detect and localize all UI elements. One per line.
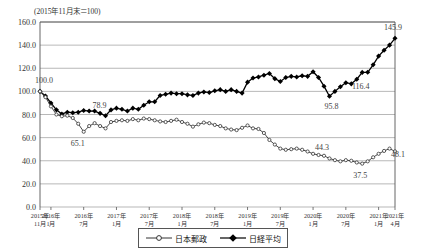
x-axis-tick-label-year: 2017年: [140, 212, 158, 220]
data-point-japanpost: [251, 127, 254, 130]
data-point-japanpost: [175, 118, 178, 121]
data-point-japanpost: [104, 127, 107, 130]
data-point-japanpost: [88, 124, 91, 127]
data-point-japanpost: [213, 123, 216, 126]
data-point-japanpost: [311, 152, 314, 155]
x-axis-tick-label-month: 7月: [145, 220, 154, 228]
data-point-japanpost: [71, 116, 74, 119]
y-axis-tick-label: 140.0: [18, 41, 36, 50]
data-label: 100.0: [35, 76, 53, 85]
data-point-japanpost: [115, 119, 118, 122]
data-point-nikkei: [234, 89, 239, 94]
legend-label-nikkei: 日経平均: [249, 233, 281, 244]
data-point-nikkei: [125, 108, 130, 113]
data-point-japanpost: [377, 152, 380, 155]
x-axis-tick-label-year: 2016年: [42, 212, 60, 220]
data-point-japanpost: [98, 124, 101, 127]
filled-diamond-marker-icon: [220, 233, 246, 243]
data-label: 65.1: [71, 139, 85, 148]
data-point-nikkei: [300, 73, 305, 78]
data-point-japanpost: [202, 121, 205, 124]
data-point-japanpost: [93, 122, 96, 125]
data-point-japanpost: [159, 120, 162, 123]
x-axis-tick-label-year: 2017年: [107, 212, 125, 220]
data-point-japanpost: [301, 148, 304, 151]
data-point-nikkei: [294, 74, 299, 79]
data-point-japanpost: [279, 147, 282, 150]
data-point-nikkei: [130, 106, 135, 111]
y-axis-tick-label: 40.0: [22, 157, 36, 166]
data-label: 145.9: [384, 23, 402, 32]
x-axis-tick-label-year: 2019年: [271, 212, 289, 220]
data-point-nikkei: [256, 74, 261, 79]
x-axis-tick-label-year: 2018年: [206, 212, 224, 220]
y-axis-tick-label: 20.0: [22, 180, 36, 189]
data-point-japanpost: [66, 114, 69, 117]
data-point-japanpost: [55, 113, 58, 116]
data-point-japanpost: [372, 156, 375, 159]
data-label: 37.5: [353, 171, 367, 180]
data-point-japanpost: [240, 126, 243, 129]
x-axis-tick-label-month: 11月: [34, 220, 46, 228]
data-point-japanpost: [273, 143, 276, 146]
data-point-nikkei: [163, 92, 168, 97]
data-point-japanpost: [262, 131, 265, 134]
data-point-japanpost: [77, 122, 80, 125]
data-point-japanpost: [153, 119, 156, 122]
x-axis-tick-label-month: 1月: [112, 220, 121, 228]
chart-legend: 日本郵政 日経平均: [138, 228, 288, 248]
data-point-japanpost: [186, 122, 189, 125]
data-point-japanpost: [328, 157, 331, 160]
data-point-nikkei: [81, 108, 86, 113]
data-label: 95.8: [324, 102, 338, 111]
data-point-nikkei: [207, 90, 212, 95]
x-axis-tick-label-month: 7月: [276, 220, 285, 228]
data-point-japanpost: [208, 122, 211, 125]
data-point-japanpost: [257, 127, 260, 130]
data-point-nikkei: [119, 107, 124, 112]
data-point-japanpost: [361, 162, 364, 165]
y-axis-tick-label: 120.0: [18, 64, 36, 73]
data-point-japanpost: [142, 117, 145, 120]
x-axis-tick-label-month: 1月: [177, 220, 186, 228]
data-label: 48.1: [391, 150, 405, 159]
data-label: 78.9: [93, 101, 107, 110]
x-axis-tick-label-month: 1月: [309, 220, 318, 228]
y-axis-tick-label: 0.0: [26, 203, 36, 212]
data-point-japanpost: [219, 124, 222, 127]
data-label: 44.3: [315, 143, 329, 152]
data-point-japanpost: [350, 159, 353, 162]
chart-plot-area: 0.020.040.060.080.0100.0120.0140.0160.02…: [0, 0, 426, 250]
data-point-japanpost: [339, 160, 342, 163]
x-axis-tick-label-year: 2020年: [337, 212, 355, 220]
data-point-japanpost: [169, 119, 172, 122]
x-axis-tick-label-month: 1月: [243, 220, 252, 228]
data-point-nikkei: [174, 91, 179, 96]
data-point-japanpost: [197, 123, 200, 126]
data-point-nikkei: [98, 111, 103, 116]
x-axis-tick-label-month: 1月: [46, 220, 55, 228]
data-point-japanpost: [290, 148, 293, 151]
data-point-japanpost: [49, 105, 52, 108]
data-point-japanpost: [382, 149, 385, 152]
legend-item-nikkei: 日経平均: [220, 233, 281, 244]
data-point-japanpost: [109, 120, 112, 123]
x-axis-tick-label-year: 2021年: [386, 212, 404, 220]
y-axis-tick-label: 100.0: [18, 87, 36, 96]
data-point-nikkei: [223, 89, 228, 94]
x-axis-tick-label-year: 2016年: [75, 212, 93, 220]
x-axis-tick-label-year: 2018年: [173, 212, 191, 220]
x-axis-tick-label-year: 2020年: [304, 212, 322, 220]
data-point-nikkei: [179, 91, 184, 96]
legend-item-japanpost: 日本郵政: [146, 233, 207, 244]
data-point-japanpost: [355, 161, 358, 164]
data-point-nikkei: [190, 93, 195, 98]
x-axis-tick-label-month: 7月: [79, 220, 88, 228]
data-point-japanpost: [44, 96, 47, 99]
data-point-japanpost: [120, 119, 123, 122]
line-chart: 0.020.040.060.080.0100.0120.0140.0160.02…: [0, 0, 426, 250]
x-axis-tick-label-month: 7月: [210, 220, 219, 228]
data-point-japanpost: [60, 115, 63, 118]
y-axis-tick-label: 160.0: [18, 18, 36, 27]
open-circle-marker-icon: [146, 233, 172, 243]
